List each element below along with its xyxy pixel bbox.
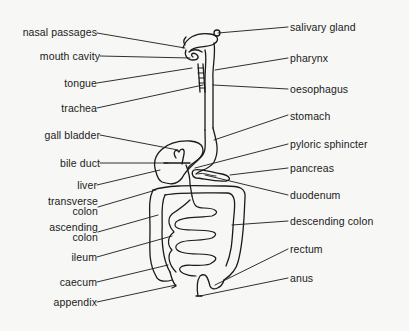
label-salivary-gland: salivary gland [290,22,356,32]
label-gall-bladder: gall bladder [45,130,101,140]
head-region [183,30,220,130]
label-bile-duct: bile duct [60,158,100,168]
label-oesophagus: oesophagus [290,84,348,94]
label-pharynx: pharynx [290,53,328,63]
label-duodenum: duodenum [290,190,340,200]
label-transverse-colon-line2: colon [48,206,98,216]
label-appendix: appendix [54,297,97,307]
label-transverse-colon: transverse colon [48,196,98,216]
label-pancreas: pancreas [290,163,334,173]
label-ascending-colon: ascending colon [49,222,98,242]
label-tongue: tongue [64,78,97,88]
label-caecum: caecum [60,277,97,287]
label-pyloric-sphincter: pyloric sphincter [290,139,368,149]
label-anus: anus [290,273,313,283]
label-liver: liver [77,180,97,190]
label-mouth-cavity: mouth cavity [40,51,100,61]
gall-bladder-shape [164,149,192,196]
digestive-system-diagram: nasal passages mouth cavity tongue trach… [0,0,409,331]
label-descending-colon: descending colon [290,216,373,226]
label-rectum: rectum [290,244,323,254]
label-trachea: trachea [61,103,97,113]
label-ascending-colon-line2: colon [49,232,98,242]
label-stomach: stomach [290,111,330,121]
label-nasal-passages: nasal passages [23,27,97,37]
label-ileum: ileum [71,252,97,262]
colon-shape [150,186,246,296]
